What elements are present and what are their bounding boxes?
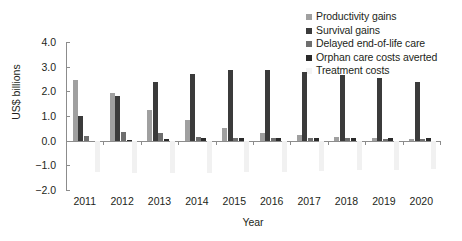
y-axis-tick-label: 3.0 bbox=[41, 61, 56, 73]
bar bbox=[265, 70, 270, 140]
y-axis-tick-labels: 4.03.02.01.00.0−1.0−2.0 bbox=[0, 42, 62, 190]
bar-group bbox=[103, 42, 140, 190]
bar bbox=[164, 139, 169, 141]
legend-swatch-icon bbox=[306, 28, 312, 34]
legend-item-productivity-gains: Productivity gains bbox=[306, 10, 462, 24]
bar bbox=[394, 141, 399, 170]
x-axis-tick-label: 2013 bbox=[148, 195, 171, 207]
bar bbox=[190, 74, 195, 141]
bar bbox=[196, 137, 201, 141]
x-axis-tick-label: 2018 bbox=[335, 195, 358, 207]
bar bbox=[426, 138, 431, 141]
bar bbox=[282, 141, 287, 172]
bar-group bbox=[141, 42, 178, 190]
bar bbox=[302, 72, 307, 141]
bar-group bbox=[290, 42, 327, 190]
x-axis-tick-label: 2016 bbox=[260, 195, 283, 207]
bar bbox=[73, 80, 78, 140]
x-axis-tick-label: 2011 bbox=[73, 195, 96, 207]
legend-item-label: Productivity gains bbox=[316, 10, 397, 24]
y-axis-tick-label: 2.0 bbox=[41, 85, 56, 97]
x-axis-tick-label: 2015 bbox=[223, 195, 246, 207]
bar bbox=[110, 93, 115, 141]
bar bbox=[377, 78, 382, 140]
bar-group bbox=[216, 42, 253, 190]
bar bbox=[431, 141, 436, 169]
plot-area bbox=[66, 42, 440, 190]
bar-group bbox=[178, 42, 215, 190]
bar-group bbox=[403, 42, 440, 190]
x-axis-title: Year bbox=[66, 216, 440, 228]
bar bbox=[409, 139, 414, 141]
bar bbox=[147, 110, 152, 141]
y-axis-tick-label: 1.0 bbox=[41, 110, 56, 122]
bar bbox=[314, 138, 319, 141]
bar bbox=[222, 128, 227, 140]
bar bbox=[132, 141, 137, 173]
bar bbox=[340, 75, 345, 141]
bar bbox=[420, 139, 425, 141]
bar bbox=[185, 120, 190, 140]
legend-item-survival-gains: Survival gains bbox=[306, 24, 462, 38]
y-axis-tick-label: 4.0 bbox=[41, 36, 56, 48]
y-axis-tick-label: −1.0 bbox=[35, 159, 56, 171]
bar bbox=[95, 141, 100, 173]
y-axis-tick-mark bbox=[66, 190, 70, 191]
bar bbox=[239, 138, 244, 141]
bar bbox=[153, 82, 158, 141]
bar bbox=[297, 135, 302, 140]
bar bbox=[115, 96, 120, 141]
bar bbox=[345, 138, 350, 140]
bar bbox=[228, 70, 233, 141]
bar bbox=[276, 138, 281, 141]
bar bbox=[357, 141, 362, 171]
chart-figure: Productivity gains Survival gains Delaye… bbox=[0, 0, 462, 241]
bar bbox=[319, 141, 324, 171]
legend-swatch-icon bbox=[306, 14, 312, 20]
x-axis-tick-label: 2014 bbox=[185, 195, 208, 207]
bar bbox=[78, 116, 83, 141]
y-axis-tick-label: −2.0 bbox=[35, 184, 56, 196]
bar-group bbox=[365, 42, 402, 190]
x-axis-tick-labels: 2011201220132014201520162017201820192020 bbox=[66, 195, 440, 209]
legend-item-label: Survival gains bbox=[316, 24, 380, 38]
x-axis-tick-label: 2019 bbox=[372, 195, 395, 207]
bar-group bbox=[66, 42, 103, 190]
bar-group bbox=[253, 42, 290, 190]
y-axis-tick-label: 0.0 bbox=[41, 135, 56, 147]
bar bbox=[334, 137, 339, 141]
bar bbox=[170, 141, 175, 173]
x-axis-tick-label: 2017 bbox=[297, 195, 320, 207]
bar bbox=[383, 139, 388, 141]
x-axis-tick-label: 2012 bbox=[110, 195, 133, 207]
bar bbox=[388, 138, 393, 141]
x-axis-tick-mark bbox=[440, 141, 441, 145]
bar bbox=[233, 138, 238, 141]
bar bbox=[84, 136, 89, 141]
bar bbox=[244, 141, 249, 173]
bar bbox=[207, 141, 212, 173]
bar bbox=[158, 133, 163, 140]
bar bbox=[308, 138, 313, 140]
bar-group bbox=[328, 42, 365, 190]
x-axis-tick-label: 2020 bbox=[410, 195, 433, 207]
bar bbox=[372, 138, 377, 141]
bar bbox=[351, 138, 356, 141]
bar bbox=[127, 140, 132, 141]
bar bbox=[121, 132, 126, 141]
bar bbox=[415, 82, 420, 140]
bar bbox=[201, 138, 206, 140]
bar bbox=[260, 133, 265, 141]
bar bbox=[271, 138, 276, 140]
